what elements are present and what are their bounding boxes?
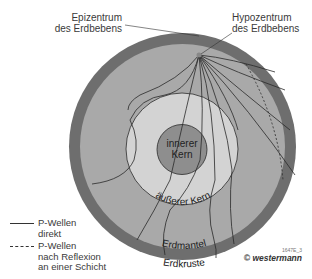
epicenter-label-line2: des Erdbebens bbox=[40, 23, 122, 34]
inner-core-label-line2: Kern bbox=[160, 149, 204, 160]
hypocenter-label: Hypozentrum des Erdbebens bbox=[232, 12, 299, 34]
hypocenter-label-line2: des Erdbebens bbox=[232, 23, 299, 34]
hypocenter-marker bbox=[197, 53, 202, 58]
legend-item-direct: P-Wellen direkt bbox=[10, 218, 106, 239]
inner-core-label-line1: innerer bbox=[160, 138, 204, 149]
solid-line-swatch bbox=[10, 223, 34, 224]
credit: 1647E_3 © westermann bbox=[244, 247, 302, 263]
inner-core-label: innerer Kern bbox=[160, 138, 204, 160]
legend-item-reflected: P-Wellen nach Reflexion an einer Schicht bbox=[10, 241, 106, 273]
epicenter-leader-line bbox=[125, 25, 199, 36]
legend-direct-line1: P-Wellen bbox=[38, 218, 76, 229]
dashed-line-swatch bbox=[10, 246, 34, 247]
epicenter-label-line1: Epizentrum bbox=[40, 12, 122, 23]
legend: P-Wellen direkt P-Wellen nach Reflexion … bbox=[10, 218, 106, 273]
hypocenter-label-line1: Hypozentrum bbox=[232, 12, 299, 23]
legend-reflected-line1: P-Wellen bbox=[38, 241, 106, 252]
legend-direct-line2: direkt bbox=[38, 229, 76, 240]
epicenter-label: Epizentrum des Erdbebens bbox=[40, 12, 122, 34]
publisher-credit: © westermann bbox=[244, 253, 302, 263]
legend-reflected-line3: an einer Schicht bbox=[38, 262, 106, 273]
